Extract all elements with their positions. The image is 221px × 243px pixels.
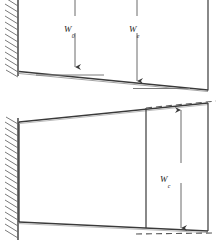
label-wc: Wc: [160, 169, 170, 187]
wall-hatching: [5, 0, 18, 77]
fixed-support-wall-lower: [5, 117, 18, 240]
label-we-base: W: [129, 24, 137, 34]
diagram-canvas: [0, 0, 221, 243]
wedge-top-shadow: [19, 105, 208, 124]
fixed-support-wall: [5, 0, 18, 77]
label-w0-subscript: 0: [72, 33, 75, 39]
upper-panel: [5, 0, 208, 92]
deflected-beam: [19, 72, 208, 91]
label-w0-base: W: [64, 24, 72, 34]
label-wc-base: W: [160, 174, 168, 184]
wedge-bottom-shadow: [19, 224, 208, 233]
tapered-wedge-outline: [19, 103, 208, 231]
wall-hatching-lower: [5, 117, 18, 238]
lower-panel: [5, 101, 216, 240]
dashed-extension-bottom: [136, 233, 214, 234]
label-we: We: [129, 19, 139, 37]
label-w0: W0: [64, 19, 75, 37]
engineering-diagram: W0 We Wc: [0, 0, 221, 243]
